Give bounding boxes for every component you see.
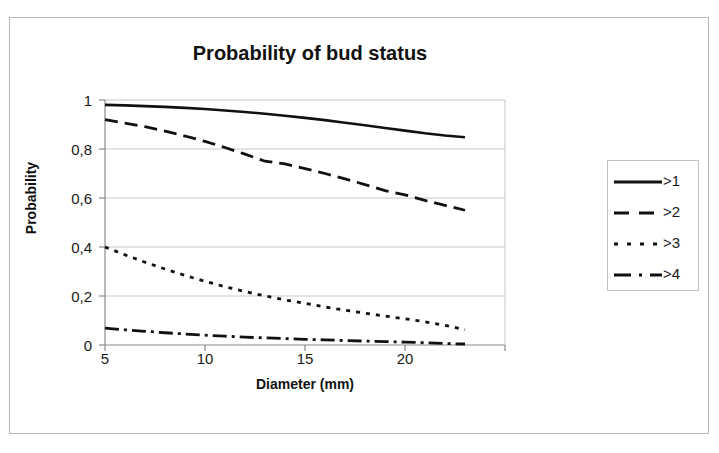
legend-swatch-dashdot-icon xyxy=(612,260,664,290)
legend-label-gt1: >1 xyxy=(663,172,680,189)
chart-figure: Probability of bud status Probability Di… xyxy=(0,0,719,453)
series-line-gt4 xyxy=(105,328,465,344)
legend-item-gt2: >2 xyxy=(608,198,700,228)
series-line-gt1 xyxy=(105,105,465,137)
legend-label-gt2: >2 xyxy=(663,203,680,220)
legend-item-gt3: >3 xyxy=(608,229,700,259)
legend-label-gt4: >4 xyxy=(663,265,680,282)
legend-swatch-dashed-icon xyxy=(612,198,664,228)
legend-item-gt4: >4 xyxy=(608,260,700,290)
legend-label-gt3: >3 xyxy=(663,234,680,251)
axes xyxy=(99,100,505,351)
legend-item-gt1: >1 xyxy=(608,167,700,197)
legend-swatch-solid-icon xyxy=(612,167,664,197)
chart-legend: >1 >2 >3 >4 xyxy=(607,160,699,291)
series-line-gt2 xyxy=(105,120,465,211)
data-series xyxy=(105,105,465,344)
legend-swatch-dotted-icon xyxy=(612,229,664,259)
grid-lines xyxy=(105,100,505,296)
series-line-gt3 xyxy=(105,247,465,330)
